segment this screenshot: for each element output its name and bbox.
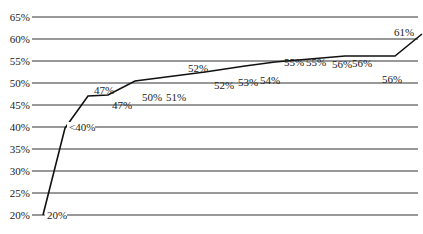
data-label: <40% bbox=[69, 121, 95, 133]
data-label: 56% bbox=[352, 57, 372, 69]
chart-svg: 20%25%30%35%40%45%50%55%60%65% 20%<40%47… bbox=[0, 0, 423, 234]
y-tick-label: 25% bbox=[10, 187, 30, 199]
data-label: 47% bbox=[112, 99, 132, 111]
y-tick-label: 45% bbox=[10, 99, 30, 111]
data-label: 61% bbox=[394, 26, 414, 38]
data-label: 55% bbox=[284, 56, 304, 68]
data-label: 50% bbox=[142, 91, 162, 103]
gridlines bbox=[32, 17, 418, 215]
y-axis-tick-labels: 20%25%30%35%40%45%50%55%60%65% bbox=[10, 11, 30, 221]
data-label: 51% bbox=[166, 91, 186, 103]
data-label: 55% bbox=[306, 56, 326, 68]
y-tick-label: 50% bbox=[10, 77, 30, 89]
y-tick-label: 40% bbox=[10, 121, 30, 133]
y-tick-label: 30% bbox=[10, 165, 30, 177]
data-label: 47% bbox=[94, 84, 114, 96]
y-tick-label: 20% bbox=[10, 209, 30, 221]
data-label: 56% bbox=[332, 58, 352, 70]
data-label: 53% bbox=[238, 76, 258, 88]
y-tick-label: 55% bbox=[10, 55, 30, 67]
y-tick-label: 65% bbox=[10, 11, 30, 23]
data-label: 56% bbox=[382, 73, 402, 85]
data-label: 20% bbox=[47, 209, 67, 221]
y-tick-label: 35% bbox=[10, 143, 30, 155]
data-label: 54% bbox=[260, 74, 280, 86]
line-chart: 20%25%30%35%40%45%50%55%60%65% 20%<40%47… bbox=[0, 0, 423, 234]
data-label: 52% bbox=[214, 79, 234, 91]
y-tick-label: 60% bbox=[10, 33, 30, 45]
data-label: 52% bbox=[188, 62, 208, 74]
